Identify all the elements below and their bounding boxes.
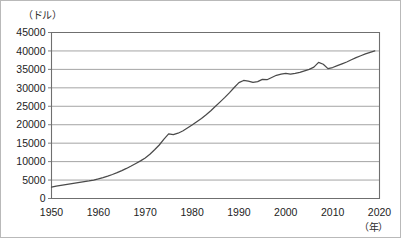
- y-tick-label: 0: [40, 192, 46, 204]
- x-tick-label: 2010: [321, 206, 345, 218]
- x-tick-label: 1990: [227, 206, 251, 218]
- x-tick-label: 1950: [40, 206, 64, 218]
- x-tick-label: 1970: [134, 206, 158, 218]
- y-tick-label: 35000: [16, 63, 45, 75]
- x-tick-label: 2020: [368, 206, 392, 218]
- y-tick-label: 15000: [16, 137, 45, 149]
- y-tick-label: 25000: [16, 100, 45, 112]
- axis-frame: [52, 33, 380, 199]
- line-chart-plot: 0500010000150002000025000300003500040000…: [1, 1, 401, 238]
- x-tick-label: 1980: [180, 206, 204, 218]
- y-tick-label: 40000: [16, 45, 45, 57]
- y-tick-label: 10000: [16, 155, 45, 167]
- x-axis-ticks: 19501960197019801990200020102020: [40, 206, 392, 218]
- y-tick-label: 45000: [16, 26, 45, 38]
- y-axis-ticks: 0500010000150002000025000300003500040000…: [16, 26, 51, 204]
- chart-figure: （ドル） （年） 0500010000150002000025000300003…: [0, 0, 401, 238]
- x-tick-label: 1960: [87, 206, 111, 218]
- y-tick-label: 20000: [16, 118, 45, 130]
- data-series-line: [52, 51, 375, 187]
- x-tick-label: 2000: [274, 206, 298, 218]
- y-tick-label: 5000: [22, 174, 46, 186]
- y-tick-label: 30000: [16, 82, 45, 94]
